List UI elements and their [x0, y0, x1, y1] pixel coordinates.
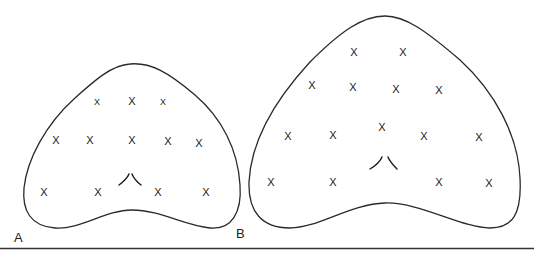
panel-b-label: B [236, 226, 245, 241]
x-mark: X [202, 186, 210, 198]
x-mark: X [349, 81, 357, 93]
x-mark: X [267, 176, 275, 188]
panel-a-arch-right-curve [132, 174, 141, 185]
x-mark: X [94, 186, 102, 198]
x-mark: X [329, 129, 337, 141]
x-mark: X [128, 95, 136, 107]
x-mark: X [485, 177, 493, 189]
x-mark: X [160, 97, 166, 107]
x-mark: X [195, 137, 203, 149]
x-mark: X [392, 83, 400, 95]
x-mark: X [399, 46, 407, 58]
panel-a-arch-left-curve [119, 174, 129, 185]
panel-b-arch-left-curve [370, 157, 382, 169]
x-mark: X [435, 84, 443, 96]
x-mark: X [86, 134, 94, 146]
x-mark: X [94, 97, 100, 107]
panel-b-marks: XXXXXXXXXXXXXXX [267, 46, 493, 189]
x-mark: X [329, 176, 337, 188]
panel-a-label: A [14, 230, 23, 245]
x-mark: X [435, 176, 443, 188]
x-mark: X [378, 121, 386, 133]
panel-a-marks: XXXXXXXXXXXX [40, 95, 210, 198]
x-mark: X [52, 134, 60, 146]
panel-b-arch-right-curve [388, 157, 397, 169]
x-mark: X [284, 130, 292, 142]
x-mark: X [308, 79, 316, 91]
x-mark: X [420, 130, 428, 142]
x-mark: X [154, 186, 162, 198]
x-mark: X [128, 134, 136, 146]
diagram-canvas: XXXXXXXXXXXX XXXXXXXXXXXXXXX A B [0, 0, 534, 253]
x-mark: X [475, 131, 483, 143]
x-mark: X [40, 186, 48, 198]
x-mark: X [164, 135, 172, 147]
x-mark: X [350, 46, 358, 58]
